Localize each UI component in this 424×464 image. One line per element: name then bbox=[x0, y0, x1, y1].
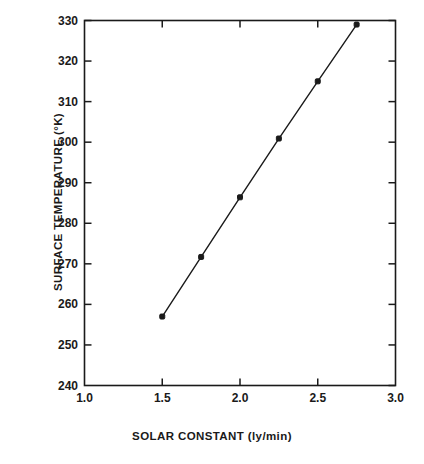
data-series bbox=[160, 22, 359, 319]
y-tick-label: 310 bbox=[32, 96, 78, 108]
data-point-marker bbox=[315, 79, 320, 84]
y-tick-label: 270 bbox=[32, 258, 78, 270]
data-point-marker bbox=[199, 254, 204, 259]
data-point-marker bbox=[160, 314, 165, 319]
series-line bbox=[162, 25, 356, 317]
data-point-marker bbox=[276, 136, 281, 141]
axes-frame bbox=[85, 21, 396, 386]
x-tick-label: 3.0 bbox=[371, 392, 421, 404]
x-tick-label: 1.0 bbox=[60, 392, 110, 404]
x-tick-label: 1.5 bbox=[137, 392, 187, 404]
x-axis-title: SOLAR CONSTANT (ly/min) bbox=[0, 430, 424, 442]
y-tick-label: 240 bbox=[32, 380, 78, 392]
y-tick-label: 330 bbox=[32, 15, 78, 27]
y-tick-label: 300 bbox=[32, 136, 78, 148]
x-axis-tick-labels: 1.01.52.02.53.0 bbox=[0, 392, 424, 412]
y-axis-tick-marks bbox=[85, 21, 396, 386]
y-tick-label: 260 bbox=[32, 298, 78, 310]
x-axis-tick-marks bbox=[162, 21, 318, 386]
y-tick-label: 250 bbox=[32, 339, 78, 351]
y-tick-label: 290 bbox=[32, 177, 78, 189]
y-tick-label: 280 bbox=[32, 217, 78, 229]
y-tick-label: 320 bbox=[32, 55, 78, 67]
x-tick-label: 2.5 bbox=[293, 392, 343, 404]
chart-figure: SURFACE TEMPERATURE (°K) 240250260270280… bbox=[0, 0, 424, 464]
x-tick-label: 2.0 bbox=[215, 392, 265, 404]
data-point-marker bbox=[354, 22, 359, 27]
data-point-marker bbox=[238, 195, 243, 200]
